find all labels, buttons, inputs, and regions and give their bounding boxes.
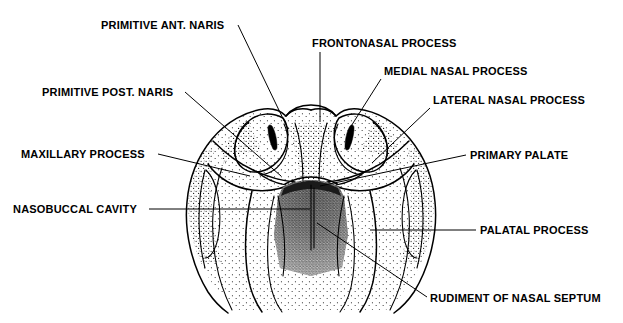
label-primitive-ant-naris: PRIMITIVE ANT. NARIS xyxy=(101,19,224,31)
label-medial-nasal-process: MEDIAL NASAL PROCESS xyxy=(384,65,528,77)
label-rudiment-of-nasal-septum: RUDIMENT OF NASAL SEPTUM xyxy=(430,292,601,304)
label-palatal-process: PALATAL PROCESS xyxy=(480,224,589,236)
diagram-canvas: PRIMITIVE ANT. NARIS PRIMITIVE POST. NAR… xyxy=(0,0,623,323)
label-maxillary-process: MAXILLARY PROCESS xyxy=(21,148,145,160)
embryonic-face-drawing xyxy=(180,100,442,315)
label-frontonasal-process: FRONTONASAL PROCESS xyxy=(312,37,457,49)
label-nasobuccal-cavity: NASOBUCCAL CAVITY xyxy=(13,203,137,215)
label-lateral-nasal-process: LATERAL NASAL PROCESS xyxy=(433,94,585,106)
label-primary-palate: PRIMARY PALATE xyxy=(470,149,568,161)
anatomical-figure: PRIMITIVE ANT. NARIS PRIMITIVE POST. NAR… xyxy=(0,0,623,323)
label-primitive-post-naris: PRIMITIVE POST. NARIS xyxy=(42,86,173,98)
